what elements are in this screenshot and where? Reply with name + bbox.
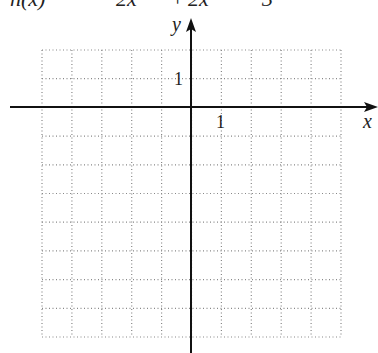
x-axis-label: x: [362, 110, 372, 132]
y-axis-label: y: [170, 13, 181, 36]
coordinate-plane: x y 1 1: [0, 0, 378, 353]
y-tick-label: 1: [174, 69, 183, 89]
x-tick-label: 1: [216, 112, 225, 132]
